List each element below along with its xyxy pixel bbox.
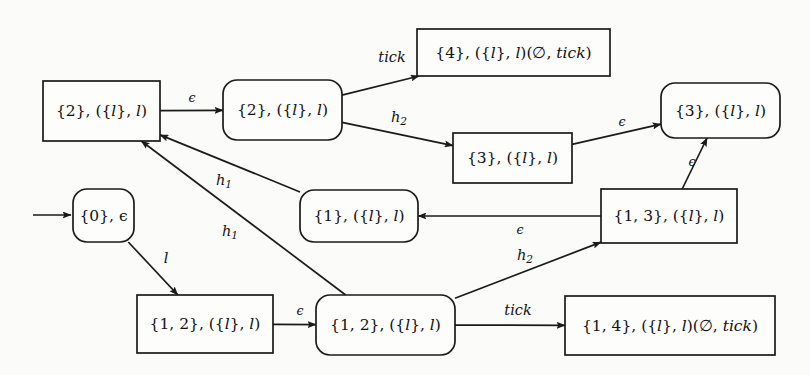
state-node-label: {1, 2}, ({l}, l) bbox=[150, 315, 261, 333]
state-node-label: {4}, ({l}, l)(∅, tick) bbox=[435, 44, 591, 62]
state-node-n0[interactable]: {0}, ϵ bbox=[73, 189, 134, 242]
state-node-n1[interactable]: {1}, ({l}, l) bbox=[300, 190, 418, 242]
edge-label-e4: ϵ bbox=[618, 114, 625, 129]
state-node-label: {3}, ({l}, l) bbox=[675, 102, 766, 120]
edge-e12 bbox=[455, 242, 601, 298]
state-node-n13[interactable]: {1, 3}, ({l}, l) bbox=[601, 189, 737, 243]
state-node-n12r[interactable]: {1, 2}, ({l}, l) bbox=[137, 295, 273, 353]
state-node-label: {1, 3}, ({l}, l) bbox=[614, 207, 725, 225]
edge-label-e3: h2 bbox=[391, 109, 407, 127]
edge-label-e2: tick bbox=[378, 49, 405, 65]
edge-label-e7: h1 bbox=[216, 172, 232, 190]
state-node-n2d[interactable]: {2}, ({l}, l) bbox=[223, 80, 342, 140]
state-node-n2r[interactable]: {2}, ({l}, l) bbox=[43, 81, 160, 141]
edge-e2 bbox=[342, 76, 419, 95]
edge-e4 bbox=[572, 124, 661, 144]
edge-label-e11: tick bbox=[504, 302, 531, 318]
state-node-label: {1}, ({l}, l) bbox=[313, 207, 404, 225]
edge-e9 bbox=[128, 242, 178, 295]
state-node-label: {2}, ({l}, l) bbox=[56, 102, 147, 120]
state-node-label: {1, 4}, ({l}, l)(∅, tick) bbox=[582, 317, 758, 335]
diagram-canvas: {0}, ϵ{2}, ({l}, l){2}, ({l}, l){4}, ({l… bbox=[0, 0, 810, 375]
state-node-label: {1, 2}, ({l}, l) bbox=[330, 316, 441, 334]
state-node-label: {0}, ϵ bbox=[79, 207, 127, 225]
edge-label-e6: ϵ bbox=[516, 222, 523, 237]
state-node-n12d[interactable]: {1, 2}, ({l}, l) bbox=[316, 295, 455, 355]
edge-label-e8: h1 bbox=[222, 223, 238, 241]
edge-label-e5: ϵ bbox=[688, 154, 695, 169]
edge-label-e9: l bbox=[164, 250, 169, 266]
state-node-label: {2}, ({l}, l) bbox=[237, 101, 328, 119]
edge-e3 bbox=[342, 122, 453, 145]
state-node-n14[interactable]: {1, 4}, ({l}, l)(∅, tick) bbox=[565, 296, 775, 355]
state-node-n3r[interactable]: {3}, ({l}, l) bbox=[453, 133, 572, 183]
state-node-n4[interactable]: {4}, ({l}, l)(∅, tick) bbox=[417, 29, 610, 76]
state-diagram: {0}, ϵ{2}, ({l}, l){2}, ({l}, l){4}, ({l… bbox=[0, 0, 810, 375]
edge-label-e1: ϵ bbox=[188, 90, 195, 105]
state-node-n3d[interactable]: {3}, ({l}, l) bbox=[661, 83, 780, 138]
edge-label-e10: ϵ bbox=[296, 303, 303, 318]
state-node-label: {3}, ({l}, l) bbox=[467, 149, 558, 167]
edge-label-e12: h2 bbox=[517, 247, 533, 265]
